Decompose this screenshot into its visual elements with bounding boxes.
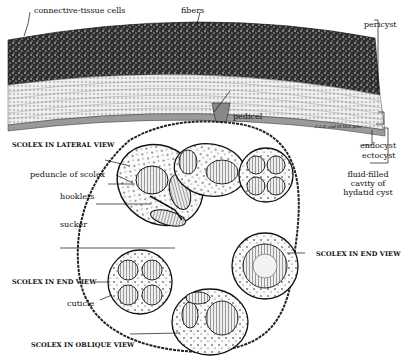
cavity-line-3: hydatid cyst	[338, 188, 398, 197]
scolex-end-right	[232, 233, 298, 299]
label-hooklets: hooklets	[60, 192, 94, 201]
label-pedicel: pedicel	[233, 112, 262, 121]
label-connective-tissue-cells: connective-tissue cells	[34, 6, 125, 15]
label-fluid-filled-cavity: fluid-filled cavity of hydatid cyst	[338, 170, 398, 197]
label-cuticle: cuticle	[67, 299, 94, 308]
label-fibers: fibers	[181, 6, 204, 15]
label-endocyst: endocyst	[360, 141, 396, 150]
label-peduncle-of-scolex: peduncle of scolex	[30, 170, 105, 179]
scolex-oblique-view	[172, 289, 248, 355]
hydatid-cyst-diagram: connective-tissue cells fibers pericyst …	[0, 0, 411, 364]
scolex-end-left	[108, 250, 172, 314]
label-scolex-oblique-view: SCOLEX IN OBLIQUE VIEW	[31, 341, 134, 350]
label-scolex-lateral-view: SCOLEX IN LATERAL VIEW	[12, 141, 114, 150]
cavity-line-2: cavity of	[338, 179, 398, 188]
label-sucker: sucker	[60, 220, 87, 229]
label-pericyst: pericyst	[364, 20, 397, 29]
label-scolex-end-view-left: SCOLEX IN END VIEW	[12, 278, 97, 287]
cavity-line-1: fluid-filled	[338, 170, 398, 179]
label-scolex-end-view-right: SCOLEX IN END VIEW	[316, 250, 401, 259]
scolex-end-top	[239, 148, 293, 202]
label-ectocyst: ectocyst	[362, 151, 396, 160]
artist-credit: C.L.S. and M.McL.pinx	[315, 122, 361, 131]
